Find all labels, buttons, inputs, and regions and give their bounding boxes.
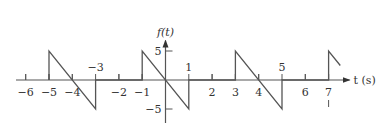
x-tick-label: −2 [111,86,127,99]
x-tick-label: −3 [87,61,103,74]
x-tick-label: −4 [64,86,80,99]
x-tick-label: 6 [302,86,309,99]
y-tick-label: 5 [155,45,162,58]
x-tick-label: 1 [185,61,192,74]
x-tick-label: −6 [18,86,34,99]
x-tick-label: 5 [279,61,286,74]
x-tick-label: 4 [255,86,262,99]
x-tick-label: 2 [209,86,216,99]
x-tick-label: 3 [232,86,239,99]
x-tick-label: −5 [41,86,57,99]
x-tick-label: −1 [134,86,150,99]
y-tick-label: −5 [145,103,161,116]
y-axis-label: f(t) [156,26,174,39]
sawtooth-chart: −6−5−4−3−2−112345675−5f(t)t (s) [0,0,382,129]
x-tick-label: 7 [325,86,332,99]
x-axis-label: t (s) [354,74,376,87]
